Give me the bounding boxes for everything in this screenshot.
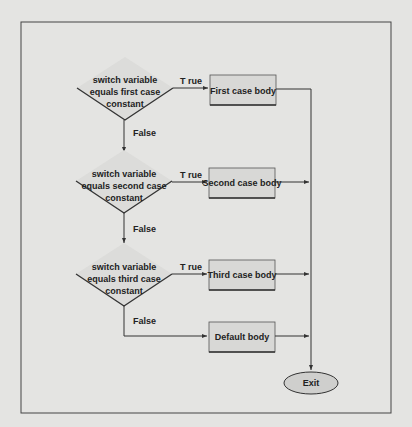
frame-border <box>21 22 391 413</box>
true-label-1: T rue <box>180 76 202 86</box>
decision-2-line-1: switch variable <box>92 169 157 179</box>
decision-3-line-2: equals third case <box>87 274 161 284</box>
false-label-3: False <box>133 316 156 326</box>
decision-1-line-2: equals first case <box>90 87 161 97</box>
switch-flowchart: switch variable equals first case consta… <box>0 0 412 427</box>
decision-3: switch variable equals third case consta… <box>76 243 172 306</box>
first-case-body-label: First case body <box>210 86 276 96</box>
default-body-label: Default body <box>215 332 270 342</box>
decision-1-line-1: switch variable <box>93 75 158 85</box>
decision-3-line-1: switch variable <box>92 262 157 272</box>
decision-2-line-3: constant <box>105 193 143 203</box>
true-label-2: T rue <box>180 170 202 180</box>
false-label-2: False <box>133 224 156 234</box>
decision-3-line-3: constant <box>105 286 143 296</box>
false-label-1: False <box>133 128 156 138</box>
third-case-body-label: Third case body <box>207 270 276 280</box>
true-label-3: T rue <box>180 262 202 272</box>
decision-1-line-3: constant <box>106 99 144 109</box>
decision-2: switch variable equals second case const… <box>76 150 172 213</box>
decision-2-line-2: equals second case <box>81 181 166 191</box>
second-case-body-label: Second case body <box>202 178 281 188</box>
decision-1: switch variable equals first case consta… <box>77 57 173 120</box>
exit-label: Exit <box>303 378 320 388</box>
